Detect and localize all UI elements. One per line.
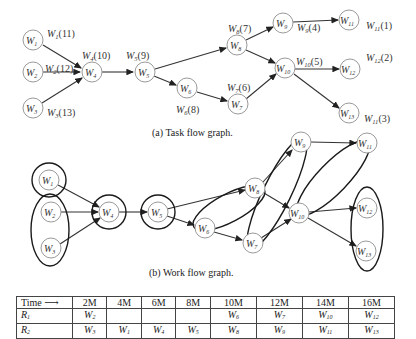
weight-w8: W8(7) [228, 23, 251, 35]
work-node-w5[interactable]: W5 [148, 202, 168, 222]
schedule-cell: W11 [302, 324, 348, 339]
time-col-4m: 4M [107, 297, 141, 309]
schedule-cell [176, 309, 210, 324]
task-node-w7[interactable]: W7 [228, 94, 248, 114]
work-flow-nodes: W1 W2 W3 W4 W5 W6 W7 W8 W9 W10 W11 W12 W… [39, 132, 377, 261]
time-label: Time [21, 297, 42, 308]
weight-w5: W5(9) [126, 50, 149, 62]
weight-w3: W3(13) [47, 107, 75, 119]
schedule-cell: W2 [73, 309, 107, 324]
task-node-w4[interactable]: W4 [82, 62, 102, 82]
right-arrow-icon: ⟶ [44, 297, 58, 308]
weight-w1: W1(11) [47, 28, 75, 40]
task-flow-graph: W1 W2 W3 W4 W5 W6 W7 W8 W9 W10 W11 W12 W… [23, 10, 393, 139]
schedule-cell: W9 [256, 324, 302, 339]
edge-w7-w10 [246, 74, 276, 99]
schedule-row-r2: R2 W3 W1 W4 W5 W8 W9 W11 W13 [17, 324, 395, 339]
schedule-cell: W10 [302, 309, 348, 324]
weight-w2: W2(12) [45, 63, 73, 75]
work-node-w7[interactable]: W7 [243, 233, 263, 253]
resource-r2: R2 [17, 324, 73, 339]
task-node-w13[interactable]: W13 [339, 103, 359, 123]
weight-w7: W7(6) [227, 82, 250, 94]
edge-w5-w8 [155, 48, 226, 69]
task-node-w10[interactable]: W10 [275, 58, 295, 78]
time-col-12m: 12M [256, 297, 302, 309]
work-node-w12[interactable]: W12 [357, 198, 377, 218]
schedule-header-row: Time ⟶ 2M 4M 6M 8M 10M 12M 14M 16M [17, 297, 395, 309]
resource-r1: R1 [17, 309, 73, 324]
time-col-6m: 6M [141, 297, 175, 309]
work-node-w13[interactable]: W13 [356, 241, 376, 261]
weight-w12: W12(2) [366, 52, 393, 64]
time-col-16m: 16M [348, 297, 394, 309]
wf-edge-w8-w10 [264, 193, 289, 208]
task-node-w12[interactable]: W12 [340, 59, 360, 79]
work-flow-caption: (b) Work flow graph. [149, 267, 234, 279]
schedule-cell: W5 [176, 324, 210, 339]
wf-edge-w3-w4 [60, 218, 100, 244]
edge-w6-w7 [197, 92, 227, 101]
weight-w10: W10(5) [296, 56, 323, 68]
edge-w8-w10 [246, 50, 275, 63]
task-node-w8[interactable]: W8 [227, 35, 247, 55]
task-node-w9[interactable]: W9 [273, 13, 293, 33]
task-node-w5[interactable]: W5 [135, 62, 155, 82]
task-node-w6[interactable]: W6 [177, 78, 197, 98]
weight-w6: W6(8) [176, 104, 199, 116]
work-flow-graph: W1 W2 W3 W4 W5 W6 W7 W8 W9 W10 W11 W12 W… [31, 131, 383, 279]
schedule-cell: W7 [256, 309, 302, 324]
weight-w11: W11(1) [366, 20, 392, 32]
schedule-table: Time ⟶ 2M 4M 6M 8M 10M 12M 14M 16M R1 W2… [16, 296, 395, 339]
schedule-row-r1: R1 W2 W6 W7 W10 W12 [17, 309, 395, 324]
weight-w9: W9(4) [297, 22, 320, 34]
work-node-w8[interactable]: W8 [245, 178, 265, 198]
work-node-w3[interactable]: W3 [41, 238, 61, 258]
work-node-w9[interactable]: W9 [291, 132, 311, 152]
schedule-cell: W13 [348, 324, 394, 339]
schedule-cell [141, 309, 175, 324]
edge-w10-w13 [294, 74, 339, 108]
wf-edge-w9-w11 [310, 142, 356, 143]
time-header: Time ⟶ [17, 297, 73, 309]
schedule-cell: W1 [107, 324, 141, 339]
schedule-cell: W3 [73, 324, 107, 339]
work-node-w10[interactable]: W10 [289, 203, 309, 223]
task-node-w3[interactable]: W3 [23, 98, 43, 118]
time-col-8m: 8M [176, 297, 210, 309]
schedule-cell: W12 [348, 309, 394, 324]
wf-edge-w6-w7 [214, 232, 242, 240]
wf-edge-w10-w13 [308, 218, 356, 246]
schedule-cell: W4 [141, 324, 175, 339]
weight-w4: W4(10) [82, 50, 110, 62]
task-flow-caption: (a) Task flow graph. [152, 127, 233, 139]
wf-edge-w8-w9 [263, 150, 292, 182]
diagram-canvas: W1 W2 W3 W4 W5 W6 W7 W8 W9 W10 W11 W12 W… [0, 0, 416, 339]
task-node-w1[interactable]: W1 [23, 30, 43, 50]
weight-w13: W11(3) [364, 113, 390, 125]
wf-edge-w7-w10 [261, 219, 291, 238]
work-node-w4[interactable]: W4 [99, 202, 119, 222]
edge-w3-w4 [42, 78, 82, 103]
schedule-cell: W8 [210, 324, 256, 339]
edge-w5-w6 [154, 76, 176, 85]
time-col-10m: 10M [210, 297, 256, 309]
resource-groups [31, 131, 383, 271]
work-node-w11[interactable]: W11 [357, 133, 377, 153]
work-node-w1[interactable]: W1 [39, 170, 59, 190]
work-node-w6[interactable]: W6 [195, 218, 215, 238]
task-node-w2[interactable]: W2 [23, 62, 43, 82]
schedule-cell: W6 [210, 309, 256, 324]
schedule-cell [107, 309, 141, 324]
work-node-w2[interactable]: W2 [41, 202, 61, 222]
time-col-2m: 2M [73, 297, 107, 309]
time-col-14m: 14M [302, 297, 348, 309]
task-node-w11[interactable]: W11 [339, 10, 359, 30]
